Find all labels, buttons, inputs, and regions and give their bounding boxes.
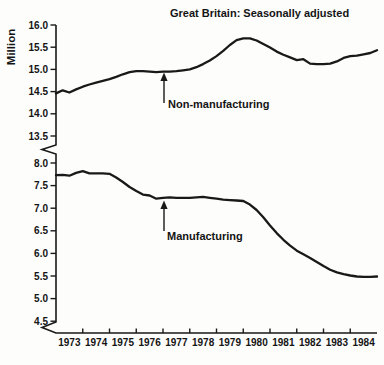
x-tick-label: 1974 <box>85 337 108 348</box>
non-manufacturing-annotation: Non-manufacturing <box>160 73 269 111</box>
y-tick-label: 14.0 <box>29 108 49 119</box>
manufacturing-line <box>56 171 377 277</box>
non-manufacturing-arrowhead-icon <box>160 73 167 82</box>
employment-line-chart: Great Britain: Seasonally adjusted Milli… <box>0 0 384 365</box>
manufacturing-annotation: Manufacturing <box>160 201 242 243</box>
y-tick-label: 13.5 <box>29 131 49 142</box>
x-tick-label: 1980 <box>246 337 269 348</box>
axes: 16.015.515.014.514.013.58.07.57.06.56.05… <box>29 20 377 349</box>
y-tick-label: 15.0 <box>29 64 49 75</box>
x-tick-label: 1973 <box>58 337 81 348</box>
y-tick-label: 7.5 <box>34 180 48 191</box>
y-tick-label: 7.0 <box>34 203 48 214</box>
x-tick-label: 1979 <box>219 337 242 348</box>
x-tick-label: 1983 <box>326 337 349 348</box>
x-tick-label: 1978 <box>192 337 215 348</box>
chart-title: Great Britain: Seasonally adjusted <box>170 7 349 19</box>
manufacturing-label: Manufacturing <box>167 230 243 242</box>
broken-y-axis-and-x-axis <box>42 25 377 333</box>
y-tick-label: 15.5 <box>29 42 49 53</box>
y-axis-label: Million <box>5 29 17 65</box>
non-manufacturing-line <box>56 38 377 93</box>
y-tick-label: 4.5 <box>34 316 48 327</box>
y-tick-label: 16.0 <box>29 20 49 31</box>
y-tick-label: 14.5 <box>29 86 49 97</box>
non-manufacturing-label: Non-manufacturing <box>168 98 269 110</box>
y-tick-label: 8.0 <box>34 158 48 169</box>
x-tick-label: 1981 <box>272 337 295 348</box>
x-tick-label: 1977 <box>165 337 188 348</box>
x-tick-label: 1984 <box>353 337 376 348</box>
y-tick-label: 6.0 <box>34 248 48 259</box>
employment-chart-figure: Great Britain: Seasonally adjusted Milli… <box>0 0 384 365</box>
y-tick-label: 6.5 <box>34 225 48 236</box>
x-tick-label: 1976 <box>139 337 162 348</box>
y-tick-label: 5.5 <box>34 271 48 282</box>
x-tick-label: 1982 <box>299 337 322 348</box>
y-tick-label: 5.0 <box>34 293 48 304</box>
manufacturing-arrowhead-icon <box>160 201 167 210</box>
x-tick-label: 1975 <box>112 337 135 348</box>
